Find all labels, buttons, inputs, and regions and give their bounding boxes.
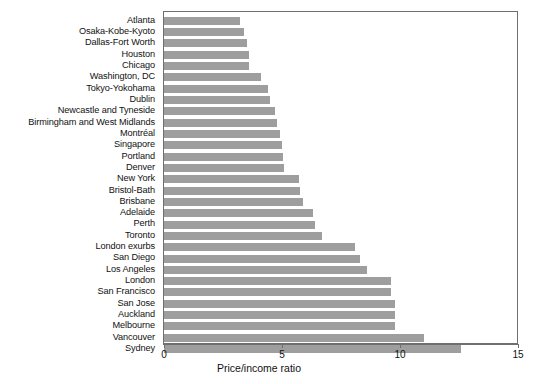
category-label: Bristol-Bath: [109, 185, 155, 196]
x-axis-title-text: Price/income ratio: [217, 362, 301, 374]
x-tick-label: 5: [279, 349, 285, 360]
bar: [164, 96, 270, 104]
category-label: Portland: [122, 151, 155, 162]
category-label: Montréal: [120, 128, 155, 139]
bar-row: Dublin: [0, 94, 536, 105]
bar-row: London exurbs: [0, 242, 536, 253]
bar: [164, 73, 261, 81]
category-label: Newcastle and Tyneside: [58, 105, 155, 116]
bar: [164, 232, 322, 240]
bar: [164, 266, 367, 274]
bar-row: Dallas-Fort Worth: [0, 38, 536, 49]
bar: [164, 345, 461, 353]
category-label: Perth: [134, 218, 155, 229]
bar-row: San Francisco: [0, 287, 536, 298]
bar: [164, 130, 280, 138]
bar: [164, 85, 268, 93]
price-income-ratio-bar-chart: AtlantaOsaka-Kobe-KyotoDallas-Fort Worth…: [0, 0, 536, 384]
category-label: San Diego: [113, 252, 155, 263]
bar-row: Adelaide: [0, 208, 536, 219]
bar: [164, 141, 282, 149]
bar-row: Sydney: [0, 343, 536, 354]
x-tick-label: 10: [394, 349, 405, 360]
category-label: Singapore: [114, 139, 155, 150]
bar-row: Toronto: [0, 230, 536, 241]
bar-row: Bristol-Bath: [0, 185, 536, 196]
x-tick: [518, 344, 519, 348]
bar-row: Newcastle and Tyneside: [0, 106, 536, 117]
category-label: Houston: [121, 49, 155, 60]
category-label: San Francisco: [98, 286, 155, 297]
x-axis-title: Price/income ratio: [0, 362, 536, 374]
bar: [164, 198, 303, 206]
bar: [164, 51, 249, 59]
category-label: Dublin: [130, 94, 155, 105]
bar: [164, 187, 300, 195]
bar-row: Brisbane: [0, 196, 536, 207]
bar-rows: AtlantaOsaka-Kobe-KyotoDallas-Fort Worth…: [0, 0, 536, 344]
bar: [164, 175, 299, 183]
bar-row: Singapore: [0, 140, 536, 151]
bar-row: Denver: [0, 162, 536, 173]
bar-row: Montréal: [0, 128, 536, 139]
x-tick-label: 15: [512, 349, 523, 360]
x-tick: [400, 344, 401, 348]
bar-row: Tokyo-Yokohama: [0, 83, 536, 94]
bar: [164, 28, 244, 36]
bar: [164, 322, 395, 330]
bar: [164, 153, 283, 161]
x-tick-label: 0: [161, 349, 167, 360]
bar: [164, 255, 360, 263]
category-label: Atlanta: [127, 15, 155, 26]
bar: [164, 300, 395, 308]
bar-row: Los Angeles: [0, 264, 536, 275]
x-axis: 051015: [163, 344, 518, 345]
category-label: Washington, DC: [90, 71, 155, 82]
bar-row: Atlanta: [0, 15, 536, 26]
bar: [164, 17, 240, 25]
category-label: Sydney: [125, 343, 155, 354]
category-label: Los Angeles: [106, 264, 155, 275]
category-label: Vancouver: [113, 332, 155, 343]
bar: [164, 243, 355, 251]
bar: [164, 311, 395, 319]
category-label: Chicago: [122, 60, 155, 71]
bar: [164, 164, 284, 172]
x-tick: [282, 344, 283, 348]
bar-row: Melbourne: [0, 321, 536, 332]
bar: [164, 277, 391, 285]
category-label: Birmingham and West Midlands: [28, 117, 155, 128]
bar: [164, 288, 391, 296]
category-label: Auckland: [118, 309, 155, 320]
category-label: Toronto: [125, 230, 155, 241]
category-label: Dallas-Fort Worth: [85, 37, 155, 48]
bar-row: Osaka-Kobe-Kyoto: [0, 27, 536, 38]
bar-row: San Diego: [0, 253, 536, 264]
bar: [164, 209, 313, 217]
bar-row: New York: [0, 174, 536, 185]
category-label: Osaka-Kobe-Kyoto: [79, 26, 155, 37]
bar: [164, 221, 315, 229]
bar-row: Auckland: [0, 310, 536, 321]
bar: [164, 39, 247, 47]
bar-row: Houston: [0, 49, 536, 60]
bar-row: Birmingham and West Midlands: [0, 117, 536, 128]
category-label: Tokyo-Yokohama: [86, 83, 155, 94]
bar: [164, 107, 275, 115]
bar-row: Washington, DC: [0, 72, 536, 83]
category-label: San Jose: [117, 298, 155, 309]
category-label: New York: [117, 173, 155, 184]
bar-row: San Jose: [0, 298, 536, 309]
bar: [164, 119, 277, 127]
category-label: Denver: [126, 162, 155, 173]
category-label: Melbourne: [112, 320, 155, 331]
bar: [164, 334, 424, 342]
bar-row: Vancouver: [0, 332, 536, 343]
bar: [164, 62, 249, 70]
x-tick: [164, 344, 165, 348]
category-label: London: [125, 275, 155, 286]
bar-row: London: [0, 276, 536, 287]
bar-row: Perth: [0, 219, 536, 230]
category-label: London exurbs: [96, 241, 156, 252]
bar-row: Portland: [0, 151, 536, 162]
